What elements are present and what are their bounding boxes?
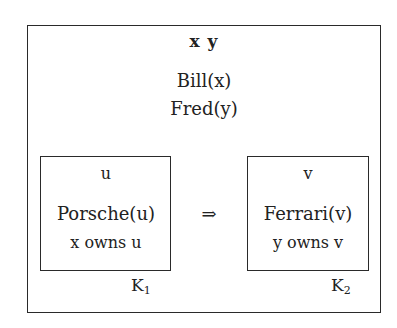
implication-arrow-icon: ⇒ (201, 205, 216, 223)
k2-condition-owns: y owns v (273, 235, 343, 251)
k2-referent: v (303, 166, 312, 182)
outer-referents: x y (190, 33, 219, 50)
k2-condition-ferrari: Ferrari(v) (264, 205, 353, 223)
k1-condition-porsche: Porsche(u) (57, 205, 155, 223)
outer-condition-bill: Bill(x) (177, 72, 232, 90)
k2-label: K2 (331, 277, 351, 296)
outer-condition-fred: Fred(y) (170, 100, 237, 118)
k1-label: K1 (131, 277, 151, 296)
k1-referent: u (101, 166, 111, 182)
k1-condition-owns: x owns u (70, 235, 141, 251)
